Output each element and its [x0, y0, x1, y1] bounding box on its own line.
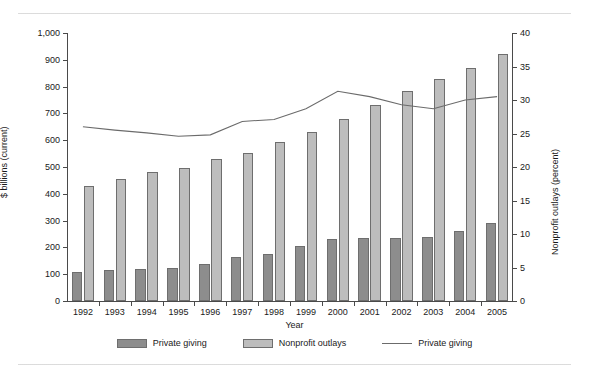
y-tick-label-left: 400 [45, 190, 60, 199]
x-tick [322, 302, 323, 306]
y-tick-label-right: 20 [520, 163, 530, 172]
y-tick-label-left: 600 [45, 136, 60, 145]
x-tick [131, 302, 132, 306]
y-axis-left-title: $ billions (current) [0, 126, 9, 198]
legend-label: Private giving [418, 338, 472, 348]
y-tick-label-left: 100 [45, 270, 60, 279]
x-tick-label: 1993 [105, 308, 125, 317]
chart-figure: $ billions (current) Nonprofit outlays (… [0, 0, 589, 379]
x-tick [163, 302, 164, 306]
x-tick [354, 302, 355, 306]
x-tick-label: 2005 [487, 308, 507, 317]
y-tick-label-right: 15 [520, 197, 530, 206]
x-tick [386, 302, 387, 306]
legend-label: Private giving [153, 338, 207, 348]
x-tick-label: 1994 [137, 308, 157, 317]
legend-bar-swatch [117, 339, 147, 348]
y-tick-right [513, 100, 517, 101]
plot-area: 01002003004005006007008009001,000 051015… [67, 33, 513, 302]
y-tick-right [513, 201, 517, 202]
legend-item[interactable]: Private giving [382, 338, 472, 348]
y-tick-right [513, 33, 517, 34]
y-tick-label-right: 30 [520, 96, 530, 105]
line-path [83, 91, 497, 136]
x-axis-title: Year [0, 320, 589, 330]
legend-label: Nonprofit outlays [279, 338, 347, 348]
legend-line-swatch [382, 339, 412, 348]
x-tick [99, 302, 100, 306]
y-tick-label-left: 200 [45, 243, 60, 252]
y-tick-label-right: 25 [520, 130, 530, 139]
x-tick [194, 302, 195, 306]
y-tick-label-right: 0 [520, 297, 525, 306]
y-tick-label-right: 10 [520, 230, 530, 239]
y-tick-label-left: 800 [45, 83, 60, 92]
x-tick-label: 2001 [360, 308, 380, 317]
line-series-private-giving [67, 33, 513, 302]
x-tick-label: 1999 [296, 308, 316, 317]
y-tick-right [513, 67, 517, 68]
chart-legend: Private givingNonprofit outlaysPrivate g… [0, 338, 589, 348]
y-tick-label-right: 40 [520, 29, 530, 38]
x-tick-label: 1995 [168, 308, 188, 317]
y-tick-label-left: 300 [45, 217, 60, 226]
x-tick [417, 302, 418, 306]
x-tick-label: 1992 [73, 308, 93, 317]
y-axis-right-title: Nonprofit outlays (percent) [550, 149, 560, 255]
y-tick-label-left: 0 [55, 297, 60, 306]
legend-bar-swatch [243, 339, 273, 348]
x-tick [226, 302, 227, 306]
y-tick-label-right: 35 [520, 63, 530, 72]
legend-item[interactable]: Nonprofit outlays [243, 338, 347, 348]
y-tick-right [513, 167, 517, 168]
x-tick-label: 1996 [200, 308, 220, 317]
y-tick-label-left: 500 [45, 163, 60, 172]
x-tick [258, 302, 259, 306]
x-tick-label: 2000 [328, 308, 348, 317]
y-tick-right [513, 268, 517, 269]
x-tick-label: 2004 [455, 308, 475, 317]
y-tick-right [513, 301, 517, 302]
y-tick-label-left: 1,000 [37, 29, 60, 38]
legend-item[interactable]: Private giving [117, 338, 207, 348]
x-tick-label: 1998 [264, 308, 284, 317]
y-tick-label-right: 5 [520, 264, 525, 273]
x-tick-label: 2002 [391, 308, 411, 317]
y-tick-label-left: 700 [45, 109, 60, 118]
x-tick-label: 2003 [423, 308, 443, 317]
x-tick [290, 302, 291, 306]
y-tick-right [513, 234, 517, 235]
x-tick [481, 302, 482, 306]
y-tick-right [513, 134, 517, 135]
y-tick-label-left: 900 [45, 56, 60, 65]
x-tick [449, 302, 450, 306]
x-tick-label: 1997 [232, 308, 252, 317]
